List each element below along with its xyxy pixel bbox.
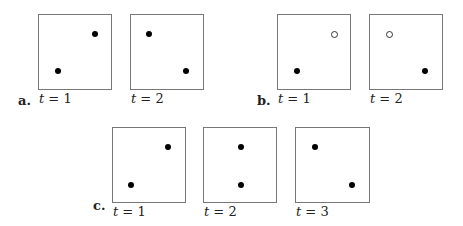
- frame-box: [38, 14, 112, 90]
- frame-box: [112, 127, 186, 203]
- filled-dot: [55, 68, 61, 74]
- frame-box: [203, 127, 277, 203]
- time-caption: t = 1: [39, 91, 72, 106]
- time-caption: t = 2: [370, 91, 403, 106]
- filled-dot: [165, 144, 171, 150]
- time-value: = 1: [118, 204, 145, 219]
- frame-box: [277, 14, 351, 90]
- panel-label: c.: [93, 198, 105, 213]
- frame-box: [369, 14, 443, 90]
- time-value: = 3: [301, 204, 328, 219]
- filled-dot: [238, 144, 244, 150]
- time-caption: t = 2: [131, 91, 164, 106]
- filled-dot: [294, 68, 300, 74]
- open-dot: [331, 31, 338, 38]
- time-caption: t = 1: [113, 204, 146, 219]
- time-caption: t = 2: [204, 204, 237, 219]
- filled-dot: [146, 31, 152, 37]
- time-value: = 2: [375, 91, 402, 106]
- frame-box: [295, 127, 370, 203]
- time-value: = 1: [44, 91, 71, 106]
- frame-box: [130, 14, 204, 90]
- time-caption: t = 3: [296, 204, 329, 219]
- time-value: = 2: [209, 204, 236, 219]
- filled-dot: [238, 182, 244, 188]
- time-value: = 1: [283, 91, 310, 106]
- open-dot: [386, 31, 393, 38]
- panel-label: b.: [257, 93, 271, 108]
- filled-dot: [183, 68, 189, 74]
- time-value: = 2: [136, 91, 163, 106]
- filled-dot: [128, 182, 134, 188]
- filled-dot: [312, 144, 318, 150]
- filled-dot: [349, 182, 355, 188]
- filled-dot: [422, 68, 428, 74]
- filled-dot: [92, 31, 98, 37]
- panel-label: a.: [18, 93, 31, 108]
- time-caption: t = 1: [278, 91, 311, 106]
